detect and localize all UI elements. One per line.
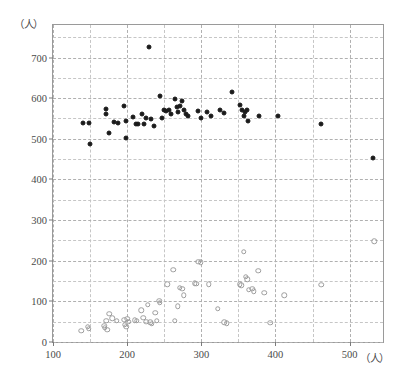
data-point-filled-circles <box>88 142 93 147</box>
data-point-filled-circles <box>199 115 204 120</box>
data-point-filled-circles <box>229 90 234 95</box>
data-point-open-circles <box>198 260 204 266</box>
data-point-open-circles <box>145 302 151 308</box>
data-point-filled-circles <box>221 111 226 116</box>
gridline-vertical <box>164 25 165 342</box>
data-point-open-circles <box>268 320 274 326</box>
data-point-filled-circles <box>173 96 178 101</box>
y-axis-tick-mark <box>49 138 53 139</box>
data-point-filled-circles <box>86 121 91 126</box>
data-point-open-circles <box>170 267 176 273</box>
data-point-filled-circles <box>131 115 136 120</box>
data-point-open-circles <box>154 318 160 324</box>
gridline-vertical <box>313 25 314 342</box>
data-point-open-circles <box>251 288 257 294</box>
data-point-open-circles <box>206 282 212 288</box>
data-point-filled-circles <box>104 107 109 112</box>
x-axis-tick-mark <box>201 342 202 346</box>
data-point-filled-circles <box>371 155 376 160</box>
gridline-horizontal <box>53 159 383 160</box>
gridline-horizontal <box>53 301 383 302</box>
y-axis-tick-label: 200 <box>17 255 53 266</box>
data-point-open-circles <box>245 276 251 282</box>
data-point-open-circles <box>193 281 199 287</box>
x-axis-tick-mark <box>350 342 351 346</box>
figure-caption <box>28 366 398 377</box>
x-axis-tick-label: 500 <box>342 349 358 360</box>
x-axis-tick-label: 100 <box>45 349 61 360</box>
data-point-open-circles <box>104 318 110 324</box>
data-point-filled-circles <box>151 124 156 129</box>
gridline-vertical <box>238 25 239 342</box>
gridline-horizontal <box>53 98 383 99</box>
y-axis-tick-mark <box>49 57 53 58</box>
data-point-open-circles <box>86 326 92 332</box>
x-axis-unit-label: （人） <box>360 350 389 365</box>
x-axis-tick-mark <box>127 342 128 346</box>
data-point-filled-circles <box>122 104 127 109</box>
gridline-vertical <box>53 25 54 342</box>
gridline-horizontal <box>53 200 383 201</box>
data-point-open-circles <box>175 303 181 309</box>
data-point-open-circles <box>241 249 247 255</box>
y-axis-tick-label: 100 <box>17 296 53 307</box>
y-axis-tick-mark <box>49 220 53 221</box>
data-point-open-circles <box>114 318 120 324</box>
y-axis-tick-label: 500 <box>17 133 53 144</box>
data-point-filled-circles <box>148 116 153 121</box>
gridline-horizontal <box>53 139 383 140</box>
gridline-vertical <box>350 25 351 342</box>
gridline-horizontal <box>53 179 383 180</box>
data-point-open-circles <box>215 306 221 312</box>
data-point-open-circles <box>153 310 159 316</box>
y-axis-tick-label: 700 <box>17 52 53 63</box>
data-point-open-circles <box>262 290 268 296</box>
data-point-filled-circles <box>157 94 162 99</box>
data-point-filled-circles <box>246 118 251 123</box>
y-axis-unit-label: （人） <box>14 16 43 31</box>
data-point-open-circles <box>282 293 288 299</box>
y-axis-tick-mark <box>49 260 53 261</box>
data-point-filled-circles <box>208 114 213 119</box>
y-axis-tick-mark <box>49 98 53 99</box>
gridline-vertical <box>201 25 202 342</box>
data-point-open-circles <box>319 282 325 288</box>
data-point-open-circles <box>78 328 84 334</box>
y-axis-tick-label: 300 <box>17 215 53 226</box>
data-point-filled-circles <box>244 107 249 112</box>
x-axis-tick-label: 400 <box>268 349 284 360</box>
y-axis-tick-label: 0 <box>17 337 53 348</box>
y-axis-tick-label: 400 <box>17 174 53 185</box>
data-point-filled-circles <box>319 121 324 126</box>
gridline-horizontal <box>53 240 383 241</box>
gridline-horizontal <box>53 78 383 79</box>
data-point-filled-circles <box>160 116 165 121</box>
data-point-filled-circles <box>185 114 190 119</box>
gridline-horizontal <box>53 37 383 38</box>
gridline-horizontal <box>53 58 383 59</box>
data-point-open-circles <box>164 282 170 288</box>
y-axis-tick-label: 600 <box>17 93 53 104</box>
data-point-filled-circles <box>168 112 173 117</box>
data-point-filled-circles <box>196 109 201 114</box>
data-point-filled-circles <box>276 114 281 119</box>
data-point-open-circles <box>239 282 245 288</box>
gridline-horizontal <box>53 220 383 221</box>
data-point-open-circles <box>138 308 144 314</box>
data-point-filled-circles <box>123 118 128 123</box>
data-point-open-circles <box>179 286 185 292</box>
x-axis-tick-label: 300 <box>193 349 209 360</box>
data-point-open-circles <box>172 318 178 324</box>
data-point-open-circles <box>157 300 163 306</box>
data-point-filled-circles <box>104 112 109 117</box>
data-point-open-circles <box>181 293 187 299</box>
data-point-filled-circles <box>135 122 140 127</box>
data-point-open-circles <box>134 318 140 324</box>
gridline-vertical <box>90 25 91 342</box>
data-point-open-circles <box>124 324 130 330</box>
data-point-filled-circles <box>175 110 180 115</box>
data-point-open-circles <box>371 238 377 244</box>
data-point-filled-circles <box>146 45 151 50</box>
x-axis-tick-mark <box>53 342 54 346</box>
data-point-open-circles <box>256 268 262 274</box>
